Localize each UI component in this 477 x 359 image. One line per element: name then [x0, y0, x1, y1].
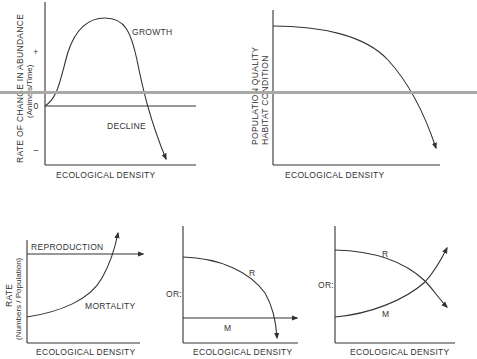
y-axis-label: RATE OF CHANGE IN ABUNDANCE [15, 14, 25, 163]
x-axis-label: ECOLOGICAL DENSITY [56, 170, 156, 180]
rate-curve [45, 18, 166, 159]
x-axis-label: ECOLOGICAL DENSITY [285, 170, 385, 180]
m-label: M [382, 309, 389, 319]
x-axis-label: ECOLOGICAL DENSITY [350, 347, 450, 357]
m-label: M [224, 323, 231, 333]
panel-rate-mortality-constant: R M OR: ECOLOGICAL DENSITY [166, 226, 298, 357]
or-label: OR: [318, 280, 334, 290]
x-axis-label: ECOLOGICAL DENSITY [193, 347, 293, 357]
x-axis-label: ECOLOGICAL DENSITY [36, 347, 136, 357]
y-axis-label: POPULATION QUALITY [250, 47, 260, 145]
tick-plus: + [33, 47, 38, 57]
r-curve [335, 250, 447, 307]
growth-label: GROWTH [132, 27, 173, 37]
r-label: R [382, 249, 388, 259]
reproduction-label: REPRODUCTION [31, 242, 104, 252]
y-axis-unit: (Numbers / Population) [14, 257, 23, 340]
mortality-label: MORTALITY [85, 301, 136, 311]
tick-zero: 0 [33, 101, 38, 111]
scan-artifact-band [0, 91, 477, 94]
figure-canvas: GROWTH DECLINE + 0 – RATE OF CHANGE IN A… [0, 0, 477, 359]
tick-minus: – [33, 145, 38, 155]
y-axis-label-2: HABITAT CONDITION [260, 55, 270, 145]
decline-label: DECLINE [107, 121, 146, 131]
m-curve [335, 248, 447, 317]
r-label: R [249, 268, 255, 278]
panel-rate-reproduction: REPRODUCTION MORTALITY RATE (Numbers / P… [4, 233, 143, 357]
panel-rate-both-vary: R M OR: ECOLOGICAL DENSITY [318, 226, 455, 357]
quality-curve [273, 26, 436, 148]
panel-population-quality: POPULATION QUALITY HABITAT CONDITION ECO… [250, 10, 440, 180]
or-label: OR: [166, 289, 182, 299]
y-axis-label: RATE [4, 284, 14, 307]
